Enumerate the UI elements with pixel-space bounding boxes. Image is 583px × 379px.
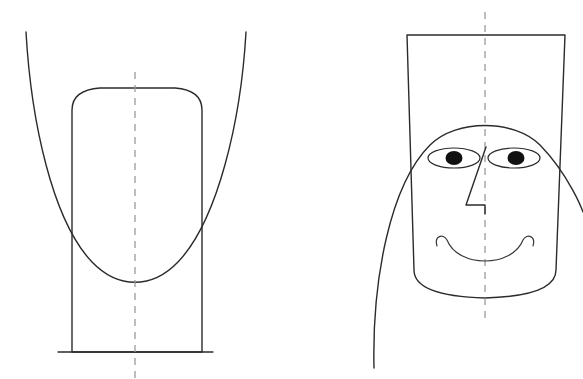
left-pupil-icon — [446, 151, 463, 165]
line-drawing-svg — [0, 0, 583, 379]
figure-canvas — [0, 0, 583, 379]
left-body-outline — [72, 88, 202, 352]
left-outer-parabolic-arc — [26, 32, 246, 282]
right-pupil-icon — [508, 151, 525, 165]
head-trapezoid — [407, 35, 565, 298]
right-figure — [374, 12, 583, 368]
left-figure — [26, 32, 246, 379]
